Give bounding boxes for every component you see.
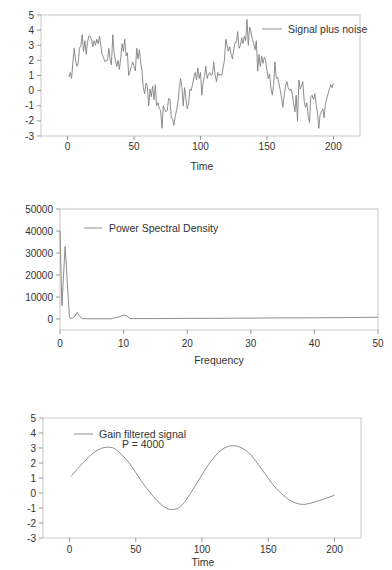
y-tick-label: -1 [27, 503, 36, 514]
y-tick-label: 2 [30, 458, 36, 469]
y-tick-label: 0 [47, 314, 53, 325]
y-tick-label: 4 [30, 428, 36, 439]
y-tick-label: 0 [30, 488, 36, 499]
legend-label: Power Spectral Density [109, 222, 219, 234]
y-tick-label: 0 [28, 85, 34, 96]
x-tick-label: 50 [372, 338, 384, 349]
chart-gain-filtered-signal: -3-2-1012345 050100150200 Gain filtered … [27, 413, 361, 569]
y-axis: 01000020000300004000050000 [25, 204, 60, 325]
x-axis-title: Time [191, 160, 214, 172]
y-tick-label: 1 [30, 473, 36, 484]
y-tick-label: 4 [28, 25, 34, 36]
legend-annotation: P = 4000 [122, 438, 164, 450]
y-axis: -3-2-1012345 [25, 10, 41, 142]
figure-canvas: -3-2-1012345 050100150200 Signal plus no… [0, 0, 392, 570]
psd-line [60, 231, 378, 319]
x-tick-label: 100 [194, 544, 211, 555]
x-tick-label: 100 [192, 141, 209, 152]
x-tick-label: 50 [130, 544, 142, 555]
x-tick-label: 150 [260, 544, 277, 555]
x-tick-label: 30 [245, 338, 257, 349]
x-axis: 050100150200 [67, 538, 344, 555]
y-tick-label: -2 [27, 518, 36, 529]
y-tick-label: -3 [25, 131, 34, 142]
y-tick-label: 2 [28, 55, 34, 66]
y-tick-label: -1 [25, 100, 34, 111]
y-tick-label: -3 [27, 533, 36, 544]
y-tick-label: 3 [30, 443, 36, 454]
x-tick-label: 0 [65, 141, 71, 152]
x-tick-label: 150 [259, 141, 276, 152]
y-tick-label: -2 [25, 115, 34, 126]
plot-frame [43, 418, 361, 538]
x-axis-title: Time [192, 556, 215, 568]
y-tick-label: 10000 [25, 292, 53, 303]
y-tick-label: 1 [28, 70, 34, 81]
y-tick-label: 3 [28, 40, 34, 51]
x-axis: 050100150200 [65, 136, 342, 152]
x-tick-label: 200 [326, 544, 343, 555]
x-tick-label: 20 [182, 338, 194, 349]
chart-signal-plus-noise: -3-2-1012345 050100150200 Signal plus no… [25, 10, 367, 173]
y-tick-label: 5 [28, 10, 34, 21]
legend-label: Signal plus noise [288, 23, 368, 35]
x-axis: 01020304050 [57, 330, 384, 349]
gain-filtered-signal-line [71, 446, 335, 510]
x-tick-label: 10 [118, 338, 130, 349]
y-tick-label: 50000 [25, 204, 53, 215]
y-tick-label: 30000 [25, 248, 53, 259]
x-tick-label: 40 [309, 338, 321, 349]
plot-frame [60, 209, 378, 330]
x-tick-label: 0 [57, 338, 63, 349]
signal-plus-noise-line [69, 20, 334, 129]
x-tick-label: 50 [128, 141, 140, 152]
y-tick-label: 5 [30, 413, 36, 424]
chart-power-spectral-density: 01000020000300004000050000 01020304050 P… [25, 204, 384, 367]
x-tick-label: 200 [325, 141, 342, 152]
x-axis-title: Frequency [194, 354, 244, 366]
y-tick-label: 40000 [25, 226, 53, 237]
y-axis: -3-2-1012345 [27, 413, 43, 544]
x-tick-label: 0 [67, 544, 73, 555]
y-tick-label: 20000 [25, 270, 53, 281]
